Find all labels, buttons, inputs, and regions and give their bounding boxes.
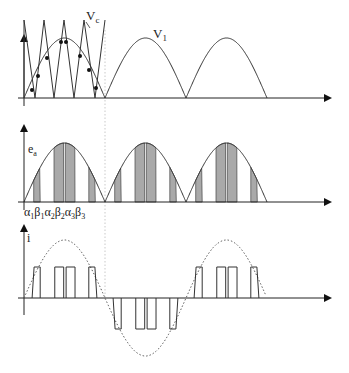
pwm-pulse: [54, 143, 64, 202]
current-pulse: [170, 298, 178, 329]
intersection-dot: [94, 86, 98, 90]
intersection-dot: [64, 40, 68, 44]
reference-label: V1: [153, 26, 167, 43]
current-panel: i: [18, 226, 330, 356]
intersection-dot: [45, 56, 49, 60]
current-pulse: [228, 267, 237, 298]
current-pulse: [147, 298, 156, 329]
current-pulse: [136, 298, 145, 329]
voltage-panel: ea α1β1α2β2α3β3: [18, 126, 330, 221]
angle-labels: α1β1α2β2α3β3: [24, 205, 85, 221]
pwm-pulse: [135, 143, 145, 202]
intersection-dot: [36, 74, 40, 78]
intersection-dot: [78, 54, 82, 58]
pwm-pulse: [216, 143, 226, 202]
current-axis-label: i: [27, 231, 31, 245]
current-pulse: [55, 267, 64, 298]
pwm-pulse: [146, 143, 156, 202]
intersection-dot: [30, 88, 34, 92]
carrier-wave: [24, 20, 105, 98]
carrier-label: Vc: [86, 8, 99, 25]
pwm-pulses: [34, 143, 258, 202]
pwm-pulse: [227, 143, 237, 202]
intersection-dot: [87, 68, 91, 72]
carrier-panel: Vc V1: [18, 8, 330, 106]
pwm-pulse: [65, 143, 75, 202]
current-pulse: [217, 267, 226, 298]
pwm-diagram: Vc V1 ea α1β1α2β2α3β3 i: [0, 0, 349, 373]
intersection-dot: [59, 40, 63, 44]
current-pulse: [89, 267, 97, 298]
current-pulse: [66, 267, 75, 298]
voltage-axis-label: ea: [28, 142, 37, 158]
